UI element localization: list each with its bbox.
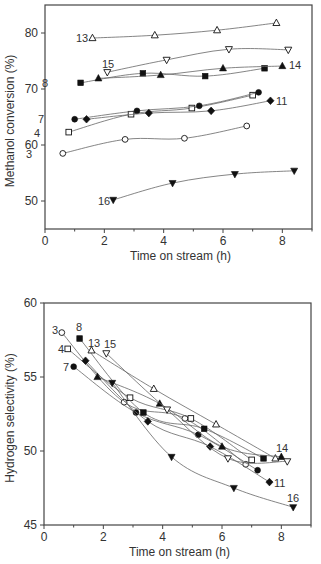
x-tick-label: 2 (100, 530, 107, 544)
series-label: 11 (276, 95, 287, 107)
open-triangle-marker-icon (273, 19, 280, 25)
filled-circle-marker-icon (255, 467, 261, 473)
series-14: 14 (95, 59, 301, 81)
x-tick-label: 8 (278, 530, 285, 544)
series-16: 16 (98, 168, 298, 207)
x-tick-label: 0 (42, 234, 49, 248)
y-axis-label: Methanol conversion (%) (3, 55, 17, 188)
plot-frame (44, 303, 311, 525)
series-3: 3 (26, 123, 250, 160)
series-line (75, 92, 259, 119)
series-7: 7 (38, 89, 262, 125)
filled-diamond-marker-icon (83, 115, 90, 123)
x-tick-label: 8 (279, 234, 286, 248)
filled-circle-marker-icon (72, 116, 78, 122)
open-triangle-marker-icon (272, 455, 279, 461)
open-square-marker-icon (189, 105, 195, 111)
filled-circle-marker-icon (256, 89, 262, 95)
series-label: 16 (98, 195, 110, 207)
series-line (112, 383, 293, 507)
open-square-marker-icon (66, 129, 72, 135)
y-axis-label: Hydrogen selectivity (%) (3, 353, 17, 482)
x-tick-label: 0 (41, 530, 48, 544)
open-down-triangle-marker-icon (103, 351, 110, 357)
filled-triangle-marker-icon (95, 75, 102, 81)
filled-diamond-marker-icon (208, 107, 215, 115)
y-tick-label: 55 (24, 370, 38, 384)
series-label: 14 (276, 442, 288, 454)
filled-circle-marker-icon (134, 108, 140, 114)
filled-square-marker-icon (77, 336, 83, 342)
filled-diamond-marker-icon (266, 478, 273, 486)
open-triangle-marker-icon (89, 34, 96, 40)
y-tick-label: 50 (25, 194, 39, 208)
open-circle-marker-icon (182, 135, 188, 141)
series-label: 7 (63, 361, 69, 373)
chart-canvas: 0246850607080Time on stream (h)Methanol … (0, 0, 321, 564)
series-13: 13 (88, 337, 279, 461)
open-circle-marker-icon (244, 123, 250, 129)
open-down-triangle-marker-icon (284, 459, 291, 465)
series-label: 15 (104, 338, 116, 350)
series-label: 7 (38, 113, 44, 125)
series-line (80, 339, 264, 459)
series-label: 11 (274, 477, 285, 489)
series-label: 16 (287, 492, 299, 504)
series-13: 13 (76, 19, 280, 44)
open-circle-marker-icon (122, 137, 128, 143)
open-down-triangle-marker-icon (285, 47, 292, 53)
filled-down-triangle-marker-icon (290, 505, 297, 511)
series-line (91, 350, 275, 458)
x-tick-label: 6 (220, 234, 227, 248)
filled-square-marker-icon (261, 456, 267, 462)
series-label: 15 (102, 58, 114, 70)
open-square-marker-icon (127, 395, 133, 401)
filled-square-marker-icon (140, 71, 146, 77)
x-tick-label: 2 (101, 234, 108, 248)
series-line (92, 23, 276, 38)
series-label: 8 (42, 77, 48, 89)
series-15: 15 (102, 47, 292, 76)
filled-triangle-marker-icon (279, 62, 286, 68)
open-triangle-marker-icon (150, 385, 157, 391)
open-square-marker-icon (65, 346, 71, 352)
filled-diamond-marker-icon (267, 97, 274, 105)
filled-diamond-marker-icon (145, 109, 152, 117)
series-8: 8 (42, 65, 267, 89)
open-triangle-marker-icon (213, 421, 220, 427)
x-tick-label: 4 (159, 530, 166, 544)
series-4: 4 (34, 92, 255, 139)
x-tick-label: 6 (219, 530, 226, 544)
methanol-conversion-chart: 0246850607080Time on stream (h)Methanol … (3, 5, 312, 263)
series-label: 4 (34, 127, 40, 139)
open-circle-marker-icon (59, 330, 65, 336)
filled-square-marker-icon (141, 410, 147, 416)
open-triangle-marker-icon (151, 31, 158, 37)
filled-square-marker-icon (201, 426, 207, 432)
filled-down-triangle-marker-icon (291, 168, 298, 174)
series-label: 14 (289, 59, 301, 71)
series-line (63, 126, 247, 153)
x-axis-label: Time on stream (h) (130, 249, 231, 263)
y-tick-label: 45 (24, 518, 38, 532)
series-label: 3 (52, 324, 58, 336)
series-line (113, 171, 294, 200)
x-axis-label: Time on stream (h) (129, 545, 230, 559)
open-down-triangle-marker-icon (104, 70, 111, 76)
y-tick-label: 60 (24, 296, 38, 310)
y-tick-label: 80 (25, 26, 39, 40)
open-circle-marker-icon (60, 151, 66, 157)
open-square-marker-icon (188, 416, 194, 422)
series-label: 3 (26, 148, 32, 160)
series-label: 4 (58, 343, 64, 355)
series-line (106, 353, 287, 463)
hydrogen-selectivity-chart: 0246845505560Time on stream (h)Hydrogen … (3, 296, 311, 559)
y-tick-label: 50 (24, 444, 38, 458)
open-square-marker-icon (249, 457, 255, 463)
filled-triangle-marker-icon (220, 64, 227, 70)
series-line (74, 367, 258, 471)
y-tick-label: 70 (25, 82, 39, 96)
filled-square-marker-icon (78, 80, 84, 86)
series-label: 13 (76, 32, 88, 44)
series-line (86, 361, 270, 482)
